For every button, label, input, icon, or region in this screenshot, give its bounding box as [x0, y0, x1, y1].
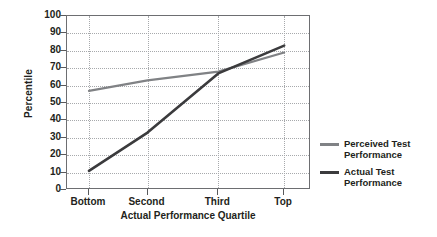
chart-legend: Perceived TestPerformanceActual TestPerf… — [320, 138, 437, 194]
x-tick-mark — [147, 189, 148, 195]
legend-label: Actual TestPerformance — [344, 166, 402, 188]
chart-container: Percentile 1009080706050403020100 Bottom… — [0, 0, 437, 237]
y-tick-mark — [60, 189, 66, 190]
x-tick-label: Second — [107, 196, 187, 207]
x-axis-title: Actual Performance Quartile — [66, 210, 310, 221]
plot-area — [66, 15, 310, 189]
legend-label-line2: Performance — [344, 177, 402, 188]
y-tick-label: 40 — [33, 114, 61, 124]
x-tick-mark — [217, 189, 218, 195]
y-tick-label: 90 — [33, 27, 61, 37]
legend-item[interactable]: Perceived TestPerformance — [320, 138, 437, 160]
series-line-actual — [89, 46, 284, 171]
y-tick-label: 0 — [33, 184, 61, 194]
x-tick-label: Top — [243, 196, 323, 207]
y-tick-label: 80 — [33, 45, 61, 55]
y-tick-label: 50 — [33, 97, 61, 107]
x-tick-mark — [283, 189, 284, 195]
y-tick-label: 70 — [33, 62, 61, 72]
y-tick-label: 20 — [33, 149, 61, 159]
series-lines — [67, 16, 311, 190]
legend-swatch-line-icon — [320, 171, 339, 174]
y-tick-label: 10 — [33, 167, 61, 177]
y-tick-label: 60 — [33, 80, 61, 90]
legend-label-line1: Actual Test — [344, 166, 395, 177]
legend-label: Perceived TestPerformance — [344, 138, 410, 160]
x-tick-mark — [88, 189, 89, 195]
y-tick-label: 30 — [33, 132, 61, 142]
y-tick-label: 100 — [33, 10, 61, 20]
legend-label-line1: Perceived Test — [344, 138, 410, 149]
legend-item[interactable]: Actual TestPerformance — [320, 166, 437, 188]
y-axis-title: Percentile — [23, 44, 34, 144]
legend-label-line2: Performance — [344, 149, 402, 160]
legend-swatch-line-icon — [320, 143, 339, 146]
